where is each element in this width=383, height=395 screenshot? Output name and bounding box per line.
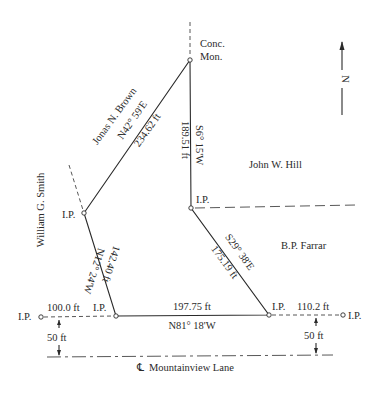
north-label: N	[340, 75, 351, 83]
iron-pin-southwest	[114, 314, 118, 318]
iron-pin-east	[189, 206, 193, 210]
distance-east-upper: 189.51 ft	[180, 121, 191, 159]
owner-bp-farrar: B.P. Farrar	[281, 240, 327, 251]
right-frontage-distance: 110.2 ft	[297, 301, 329, 312]
ip-label-east: I.P.	[196, 194, 209, 205]
monument-label-line1: Conc.	[200, 38, 225, 49]
ip-label-southeast: I.P.	[272, 301, 285, 312]
road-centerline	[47, 355, 333, 357]
road-name: Mountainview Lane	[149, 362, 234, 373]
bearing-east-upper: S6° 15'W	[194, 125, 205, 165]
west-boundary-extension-line	[69, 165, 83, 210]
iron-pin-southeast	[267, 313, 271, 317]
left-setback-distance: 50 ft	[47, 332, 67, 343]
left-frontage-distance: 100.0 ft	[47, 302, 80, 313]
iron-pin-far-west	[39, 315, 43, 319]
distance-south-side: 197.75 ft	[173, 301, 211, 312]
owner-william-smith: William G. Smith	[35, 172, 46, 247]
iron-pin-west	[82, 211, 86, 215]
right-setback-distance: 50 ft	[304, 330, 324, 341]
bearing-west-side: N12° 24'W	[82, 247, 107, 295]
concrete-monument-point	[188, 58, 192, 62]
ip-label-southwest: I.P.	[93, 302, 106, 313]
monument-label-line2: Mon.	[200, 51, 222, 62]
ip-label-far-west: I.P.	[18, 311, 31, 322]
ip-label-far-east: I.P.	[348, 310, 361, 321]
bearing-south-side: N81° 18'W	[168, 320, 215, 331]
iron-pin-far-east	[341, 313, 345, 317]
owner-john-hill: John W. Hill	[249, 159, 302, 170]
left-frontage-line	[44, 316, 114, 317]
ip-label-west: I.P.	[62, 209, 75, 220]
survey-plat: N Conc. Mon. Jonas N. Brown William G. S…	[0, 0, 383, 395]
hill-farrar-boundary-line	[195, 205, 356, 208]
centerline-symbol: ℄	[136, 362, 144, 373]
